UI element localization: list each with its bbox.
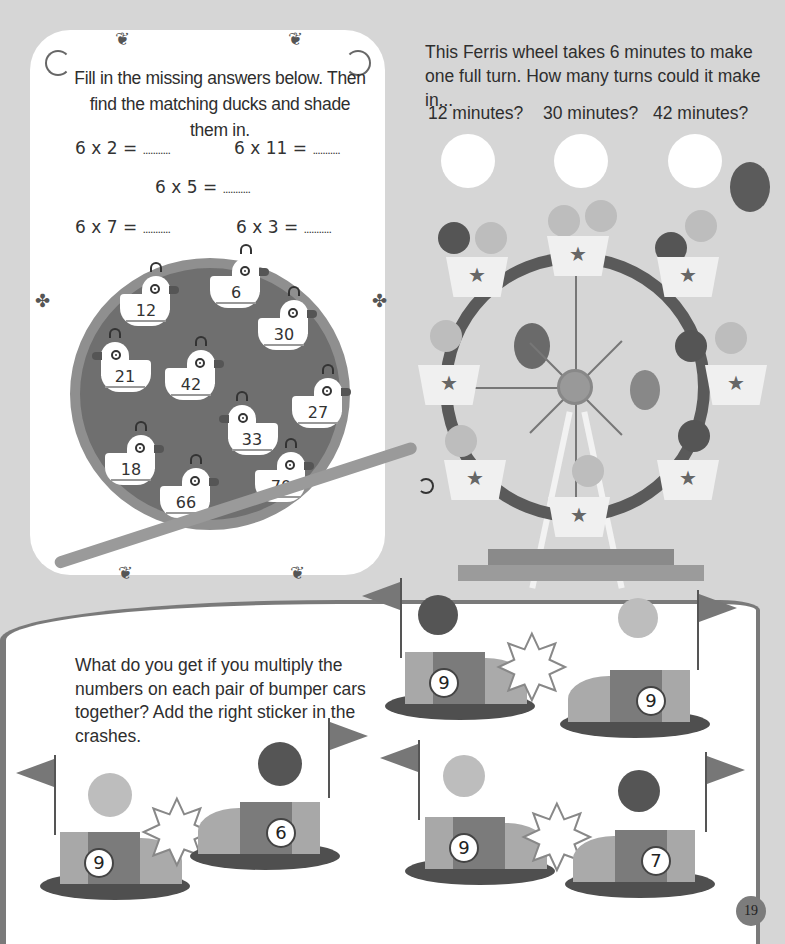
ferris-question: This Ferris wheel takes 6 minutes to mak… (425, 40, 765, 112)
rider (685, 210, 717, 242)
balloon-icon (730, 162, 770, 212)
number-badge: 7 (641, 846, 671, 876)
driver (258, 742, 302, 786)
driver (618, 598, 658, 638)
driver (88, 773, 132, 817)
gondola: ★ (547, 236, 609, 276)
rider (572, 455, 604, 487)
ornament-icon: ❦ (290, 562, 305, 583)
crash-sticker-target[interactable]: ✸ (495, 625, 569, 713)
rider (445, 425, 477, 457)
hook-icon (418, 478, 434, 494)
answer-blank[interactable]: ........... (143, 223, 170, 236)
number-badge: 9 (449, 833, 479, 863)
rider (430, 320, 462, 352)
answer-blank[interactable]: ........... (223, 183, 250, 196)
gondola: ★ (705, 365, 767, 405)
ornament-icon: ❦ (115, 28, 130, 49)
answer-blank[interactable]: ........... (304, 223, 331, 236)
flag-icon (418, 740, 420, 820)
equation-6x3: 6 x 3 = ........... (236, 217, 331, 237)
flag-icon (400, 578, 402, 658)
rider (678, 420, 710, 452)
equation-6x5: 6 x 5 = ........... (155, 177, 250, 197)
answer-circle-12[interactable] (441, 134, 495, 188)
flag-icon (705, 752, 707, 832)
ornament-icon: ❦ (288, 28, 303, 49)
rider (715, 322, 747, 354)
ornament-icon: ✤ (35, 290, 50, 311)
wheel-hub (557, 369, 593, 405)
number-badge: 9 (636, 686, 666, 716)
number-badge: 9 (429, 668, 459, 698)
gondola: ★ (657, 460, 719, 500)
prompt-30-minutes: 30 minutes? (543, 103, 638, 124)
rider (475, 222, 507, 254)
equation-6x11: 6 x 11 = ........... (234, 138, 340, 158)
gondola: ★ (418, 365, 480, 405)
scroll-ornament (45, 50, 71, 76)
duck-42[interactable]: 42 (165, 350, 221, 400)
ornament-icon: ✤ (372, 290, 387, 311)
bumper-car-9: 9 (560, 668, 710, 738)
bumper-car-6: 6 (190, 800, 340, 870)
duck-30[interactable]: 30 (258, 300, 314, 350)
prompt-12-minutes: 12 minutes? (428, 103, 523, 124)
driver (418, 595, 458, 635)
duck-33[interactable]: 33 (222, 405, 278, 455)
duck-12[interactable]: 12 (120, 276, 176, 326)
flag-icon (328, 718, 330, 798)
number-badge: 6 (266, 818, 296, 848)
driver (443, 755, 485, 797)
rider (548, 205, 580, 237)
gondola: ★ (548, 497, 610, 537)
duck-21[interactable]: 21 (95, 342, 151, 392)
answer-circle-30[interactable] (554, 134, 608, 188)
driver (618, 770, 660, 812)
gondola: ★ (446, 257, 508, 297)
wheel-base (458, 565, 704, 581)
gondola: ★ (444, 460, 506, 500)
bumper-car-7: 7 (565, 828, 715, 898)
answer-blank[interactable]: ........... (143, 144, 170, 157)
equation-6x2: 6 x 2 = ........... (75, 138, 170, 158)
rider (438, 222, 470, 254)
rider (585, 200, 617, 232)
duck-27[interactable]: 27 (292, 378, 348, 428)
answer-circle-42[interactable] (668, 134, 722, 188)
ornament-icon: ❦ (118, 562, 133, 583)
page-number: 19 (736, 896, 766, 926)
duck-18[interactable]: 18 (105, 435, 161, 485)
duck-instruction: Fill in the missing answers below. Then … (70, 65, 370, 143)
wheel-base (488, 549, 674, 565)
rider (675, 330, 707, 362)
equation-6x7: 6 x 7 = ........... (75, 217, 170, 237)
prompt-42-minutes: 42 minutes? (653, 103, 748, 124)
number-badge: 9 (84, 848, 114, 878)
answer-blank[interactable]: ........... (312, 144, 339, 157)
flag-icon (54, 755, 56, 835)
gondola: ★ (657, 257, 719, 297)
flag-icon (697, 590, 699, 670)
